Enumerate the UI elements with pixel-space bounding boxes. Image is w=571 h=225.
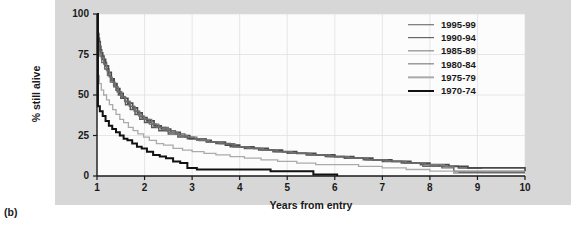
legend-label: 1970-74 — [441, 85, 476, 96]
legend-label: 1995-99 — [441, 19, 476, 30]
y-tick-label-50: 50 — [55, 89, 89, 100]
panel-label: (b) — [4, 206, 17, 218]
x-tick-label-9: 9 — [463, 182, 491, 193]
y-tick-label-25: 25 — [55, 130, 89, 141]
y-tick-label-100: 100 — [55, 8, 89, 19]
x-tick-label-5: 5 — [273, 182, 301, 193]
legend-item-1985-89[interactable]: 1985-89 — [408, 44, 476, 57]
legend-item-1970-74[interactable]: 1970-74 — [408, 84, 476, 97]
legend-label: 1975-79 — [441, 72, 476, 83]
x-tick-label-8: 8 — [416, 182, 444, 193]
legend-item-1995-99[interactable]: 1995-99 — [408, 18, 476, 31]
survival-curve-figure: 025507510012345678910 Years from entry %… — [0, 0, 571, 225]
y-axis-title: % still alive — [30, 34, 42, 154]
legend-label: 1990-94 — [441, 32, 476, 43]
x-tick-label-2: 2 — [131, 182, 159, 193]
x-tick-label-6: 6 — [321, 182, 349, 193]
legend-item-1990-94[interactable]: 1990-94 — [408, 31, 476, 44]
chart-legend: 1995-991990-941985-891980-841975-791970-… — [408, 18, 476, 97]
legend-line-icon — [408, 58, 434, 70]
legend-line-icon — [408, 19, 434, 31]
legend-line-icon — [408, 32, 434, 44]
legend-label: 1980-84 — [441, 59, 476, 70]
series-line-1975-79 — [97, 14, 458, 173]
legend-line-icon — [408, 85, 434, 97]
y-tick-label-75: 75 — [55, 49, 89, 60]
y-tick-label-0: 0 — [55, 170, 89, 181]
x-axis-title: Years from entry — [97, 199, 525, 211]
x-tick-label-7: 7 — [368, 182, 396, 193]
x-tick-label-4: 4 — [226, 182, 254, 193]
x-tick-label-3: 3 — [178, 182, 206, 193]
x-tick-label-10: 10 — [511, 182, 539, 193]
legend-item-1980-84[interactable]: 1980-84 — [408, 58, 476, 71]
legend-item-1975-79[interactable]: 1975-79 — [408, 71, 476, 84]
legend-label: 1985-89 — [441, 45, 476, 56]
legend-line-icon — [408, 45, 434, 57]
legend-line-icon — [408, 71, 434, 83]
x-tick-label-1: 1 — [83, 182, 111, 193]
